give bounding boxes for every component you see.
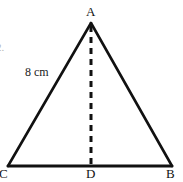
vertex-label-a: A	[86, 5, 95, 18]
triangle-diagram-canvas	[0, 0, 183, 182]
triangle-side-ca	[8, 23, 91, 166]
vertex-label-c: C	[0, 167, 8, 180]
side-length-label: 8 cm	[25, 66, 49, 78]
clipped-margin-text: 2.	[0, 42, 6, 53]
geometry-figure: A C B D 8 cm 2.	[0, 0, 183, 182]
triangle-side-ab	[91, 23, 172, 166]
vertex-label-b: B	[166, 167, 175, 180]
vertex-label-d: D	[86, 167, 95, 180]
